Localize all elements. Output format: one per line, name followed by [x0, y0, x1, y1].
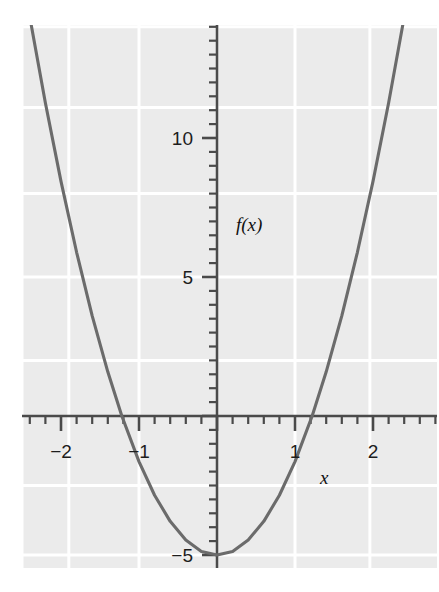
y-tick-label-negative: −5	[171, 545, 193, 566]
y-tick-label: 10	[172, 128, 193, 149]
x-tick-label: −2	[50, 441, 72, 462]
y-tick-label: 5	[182, 267, 193, 288]
x-tick-label: 2	[368, 441, 379, 462]
parabola-plot: −2−112510−5 f(x) x	[0, 0, 439, 592]
y-axis-label: f(x)	[236, 214, 262, 236]
chart-figure: −2−112510−5 f(x) x	[0, 0, 439, 592]
x-tick-label: 1	[290, 441, 301, 462]
x-tick-label: −1	[128, 441, 150, 462]
x-axis-label: x	[319, 467, 329, 488]
